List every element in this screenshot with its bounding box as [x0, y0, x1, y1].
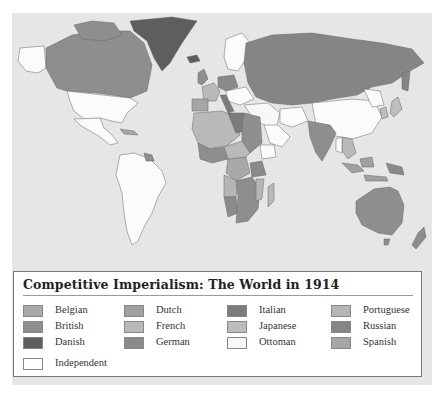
- legend-label: Russian: [363, 320, 396, 331]
- legend-label: Japanese: [259, 320, 296, 331]
- legend-label: Danish: [55, 336, 85, 347]
- legend-label: Dutch: [156, 304, 182, 315]
- legend-label: German: [156, 336, 190, 347]
- swatch-portuguese: [331, 305, 351, 317]
- legend-label: Belgian: [55, 304, 88, 315]
- legend-title: Competitive Imperialism: The World in 19…: [23, 277, 339, 292]
- legend-label: French: [156, 320, 185, 331]
- swatch-french: [124, 321, 144, 333]
- swatch-dutch: [124, 305, 144, 317]
- swatch-spanish: [331, 337, 351, 349]
- legend-label: Spanish: [363, 336, 396, 347]
- legend-label: Ottoman: [259, 336, 296, 347]
- swatch-ottoman: [227, 337, 247, 349]
- swatch-danish: [23, 337, 43, 349]
- swatch-british: [23, 321, 43, 333]
- legend-label: Italian: [259, 304, 286, 315]
- map-legend: Competitive Imperialism: The World in 19…: [13, 271, 422, 377]
- legend-label: Portuguese: [363, 304, 410, 315]
- legend-label: Independent: [55, 357, 107, 368]
- swatch-independent: [23, 358, 43, 370]
- swatch-german: [124, 337, 144, 349]
- swatch-russian: [331, 321, 351, 333]
- swatch-belgian: [23, 305, 43, 317]
- legend-divider: [23, 295, 413, 296]
- legend-label: British: [55, 320, 84, 331]
- swatch-italian: [227, 305, 247, 317]
- world-map-graphic: [12, 13, 432, 273]
- swatch-japanese: [227, 321, 247, 333]
